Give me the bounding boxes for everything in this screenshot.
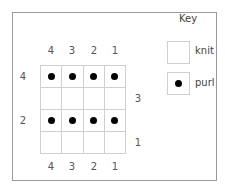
knit-cell (41, 132, 62, 154)
purl-dot-icon (48, 73, 55, 80)
knit-label: knit (195, 45, 214, 56)
knit-cell (105, 88, 126, 110)
purl-symbol (167, 72, 190, 95)
knit-cell (84, 132, 105, 154)
purl-cell (62, 110, 83, 132)
knit-cell (84, 88, 105, 110)
purl-cell (105, 66, 126, 88)
column-label-bottom: 3 (65, 161, 79, 173)
column-label-top: 3 (65, 45, 79, 57)
purl-dot-icon (111, 73, 118, 80)
row-label-left: 2 (16, 115, 30, 127)
row-label-right: 3 (131, 93, 145, 105)
column-label-top: 2 (87, 45, 101, 57)
knit-cell (41, 88, 62, 110)
purl-cell (41, 110, 62, 132)
column-label-top: 1 (108, 45, 122, 57)
stitch-grid (40, 65, 126, 154)
purl-dot-icon (48, 117, 55, 124)
knit-symbol (167, 41, 190, 64)
purl-cell (84, 66, 105, 88)
column-label-bottom: 1 (108, 161, 122, 173)
purl-cell (105, 110, 126, 132)
purl-dot-icon (175, 80, 182, 87)
key-title: Key (172, 13, 204, 24)
purl-cell (84, 110, 105, 132)
knit-cell (62, 132, 83, 154)
knit-cell (105, 132, 126, 154)
column-label-top: 4 (44, 45, 58, 57)
row-label-right: 1 (131, 137, 145, 149)
column-label-bottom: 2 (87, 161, 101, 173)
purl-dot-icon (90, 117, 97, 124)
column-label-bottom: 4 (44, 161, 58, 173)
purl-dot-icon (69, 117, 76, 124)
purl-dot-icon (111, 117, 118, 124)
row-label-left: 4 (16, 71, 30, 83)
purl-label: purl (195, 77, 215, 88)
purl-dot-icon (69, 73, 76, 80)
purl-dot-icon (90, 73, 97, 80)
knit-cell (62, 88, 83, 110)
purl-cell (62, 66, 83, 88)
purl-cell (41, 66, 62, 88)
